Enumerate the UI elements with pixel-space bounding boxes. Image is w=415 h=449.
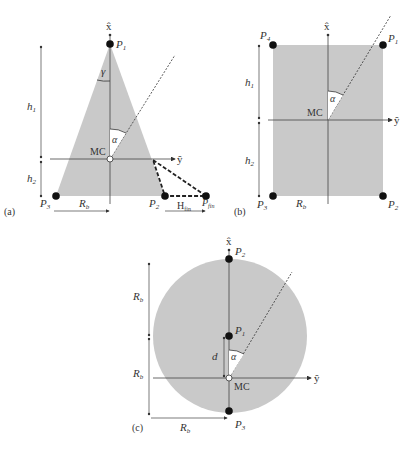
svg-text:P1: P1 xyxy=(115,38,126,52)
mc-point-c xyxy=(226,375,232,381)
axis-y-label-a: ŷ xyxy=(177,153,183,165)
point-p3 xyxy=(52,192,60,200)
svg-text:P3: P3 xyxy=(256,198,268,212)
svg-text:P2: P2 xyxy=(387,198,399,212)
mc-label-b: MC xyxy=(307,107,323,118)
point-p2-c xyxy=(225,255,233,263)
svg-text:Hfin: Hfin xyxy=(177,200,191,212)
svg-text:Rb: Rb xyxy=(179,421,191,435)
svg-text:P1: P1 xyxy=(387,32,398,46)
panel-tag-c: (c) xyxy=(132,422,143,434)
alpha-label-b: α xyxy=(330,93,336,104)
point-p2 xyxy=(161,192,169,200)
figure-canvas: x̂ ŷ P1 P3 P2 Pfin MC h1 h2 Rb Hfin γ α … xyxy=(0,0,415,449)
svg-text:P2: P2 xyxy=(234,245,246,259)
panel-tag-a: (a) xyxy=(4,206,15,218)
d-label: d xyxy=(212,350,218,362)
svg-text:Rb: Rb xyxy=(78,197,90,211)
svg-text:h1: h1 xyxy=(245,76,254,90)
hfin-label-a: H xyxy=(177,200,184,211)
axis-x-label-b: x̂ xyxy=(324,20,330,32)
svg-text:P3: P3 xyxy=(39,197,51,211)
point-p4 xyxy=(269,41,277,49)
svg-text:Rb: Rb xyxy=(132,367,144,381)
axis-y-label-b: ŷ xyxy=(394,114,400,126)
panel-b: x̂ ŷ P4 P1 P3 P2 MC h1 h2 Rb α (b) xyxy=(234,15,400,218)
point-p2-b xyxy=(379,192,387,200)
cone-shape xyxy=(56,44,165,196)
pfin-label-a: P xyxy=(201,197,208,208)
alpha-label-c: α xyxy=(231,351,237,362)
axis-x-label-a: x̂ xyxy=(106,20,112,32)
panel-a: x̂ ŷ P1 P3 P2 Pfin MC h1 h2 Rb Hfin γ α … xyxy=(4,20,214,218)
svg-text:Rb: Rb xyxy=(295,197,307,211)
alpha-label-a: α xyxy=(112,134,118,145)
svg-text:Rb: Rb xyxy=(132,290,144,304)
panel-tag-b: (b) xyxy=(234,206,246,218)
svg-text:h2: h2 xyxy=(245,154,255,168)
point-p1 xyxy=(106,40,114,48)
svg-text:Pfin: Pfin xyxy=(201,197,214,209)
mc-label-a: MC xyxy=(90,146,106,157)
gamma-label: γ xyxy=(101,65,106,77)
point-p3-c xyxy=(225,407,233,415)
mc-label-c: MC xyxy=(234,381,250,392)
axis-y-label-c: ŷ xyxy=(314,372,320,384)
point-p1-b xyxy=(379,41,387,49)
svg-text:h1: h1 xyxy=(27,100,36,114)
point-p3-b xyxy=(269,192,277,200)
panel-c: x̂ ŷ P2 P1 P3 MC d α Rb Rb Rb (c) xyxy=(132,235,320,435)
mc-point xyxy=(107,156,113,162)
svg-text:P2: P2 xyxy=(148,197,160,211)
axis-x-label-c: x̂ xyxy=(226,235,232,247)
point-p1-c xyxy=(225,332,233,340)
svg-text:h2: h2 xyxy=(27,172,37,186)
svg-text:P3: P3 xyxy=(234,418,246,432)
svg-text:P4: P4 xyxy=(259,29,271,43)
